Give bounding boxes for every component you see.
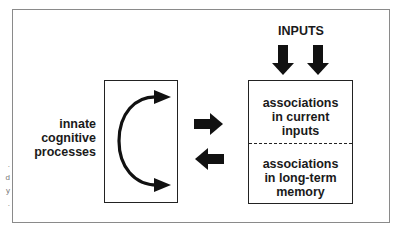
arrow-left-icon [195, 148, 224, 170]
input-arrow-down-icon [307, 45, 329, 75]
input-arrow-down-icon [272, 45, 294, 75]
arrow-right-icon [194, 113, 223, 135]
arrows-layer [0, 0, 397, 232]
curved-cycle-arrow-icon [119, 90, 171, 192]
